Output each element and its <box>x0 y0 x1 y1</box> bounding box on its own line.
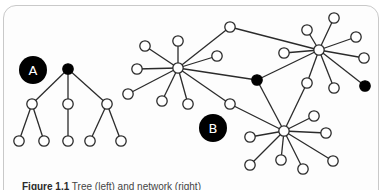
network-node <box>173 36 183 46</box>
figure-caption: Figure 1.1 Tree (left) and network (righ… <box>22 181 201 190</box>
tree-edge <box>107 104 121 141</box>
tree-node <box>14 136 24 146</box>
tree-node <box>39 136 49 146</box>
network-node <box>225 99 235 109</box>
tree-node <box>102 99 112 109</box>
network-node <box>359 53 369 63</box>
tree-badge-label: A <box>29 63 38 78</box>
network-node <box>328 156 338 166</box>
tree-node <box>116 136 126 146</box>
network-node <box>314 45 324 55</box>
network-edge <box>284 131 326 133</box>
edges <box>19 18 365 169</box>
tree-edge <box>68 69 107 104</box>
network-node <box>309 111 319 121</box>
network-highlight-node <box>252 75 262 85</box>
network-node <box>302 78 312 88</box>
network-edge <box>257 80 284 131</box>
caption-label: Figure 1.1 <box>22 181 69 190</box>
network-edge <box>137 68 178 69</box>
tree-network-diagram: AB <box>0 0 384 190</box>
network-node <box>173 63 183 73</box>
tree-highlight-node <box>63 64 73 74</box>
network-edge <box>284 83 307 131</box>
network-node <box>245 132 255 142</box>
tree-node <box>27 99 37 109</box>
network-node <box>123 89 133 99</box>
network-node <box>140 41 150 51</box>
network-node <box>329 83 339 93</box>
network-node <box>298 164 308 174</box>
network-node <box>329 13 339 23</box>
network-node <box>302 25 312 35</box>
tree-node <box>63 136 73 146</box>
network-edge <box>319 50 364 58</box>
network-node <box>279 126 289 136</box>
tree-edge <box>90 104 107 141</box>
network-node <box>276 155 286 165</box>
network-node <box>212 51 222 61</box>
network-highlight-node <box>360 81 370 91</box>
network-badge-label: B <box>209 121 218 136</box>
tree-edge <box>19 104 32 141</box>
network-node <box>183 99 193 109</box>
tree-node <box>63 99 73 109</box>
network-node <box>157 96 167 106</box>
network-edge <box>178 56 217 68</box>
network-node <box>279 48 289 58</box>
network-node <box>245 160 255 170</box>
network-edge <box>178 68 257 80</box>
network-edge <box>178 27 230 68</box>
network-edge <box>145 46 178 68</box>
tree-node <box>85 136 95 146</box>
network-edge <box>230 104 284 131</box>
network-node <box>225 22 235 32</box>
caption-text: Tree (left) and network (right) <box>72 181 201 190</box>
network-node <box>321 128 331 138</box>
network-node <box>351 32 361 42</box>
network-node <box>132 64 142 74</box>
badges: AB <box>19 56 227 142</box>
nodes <box>14 13 370 174</box>
